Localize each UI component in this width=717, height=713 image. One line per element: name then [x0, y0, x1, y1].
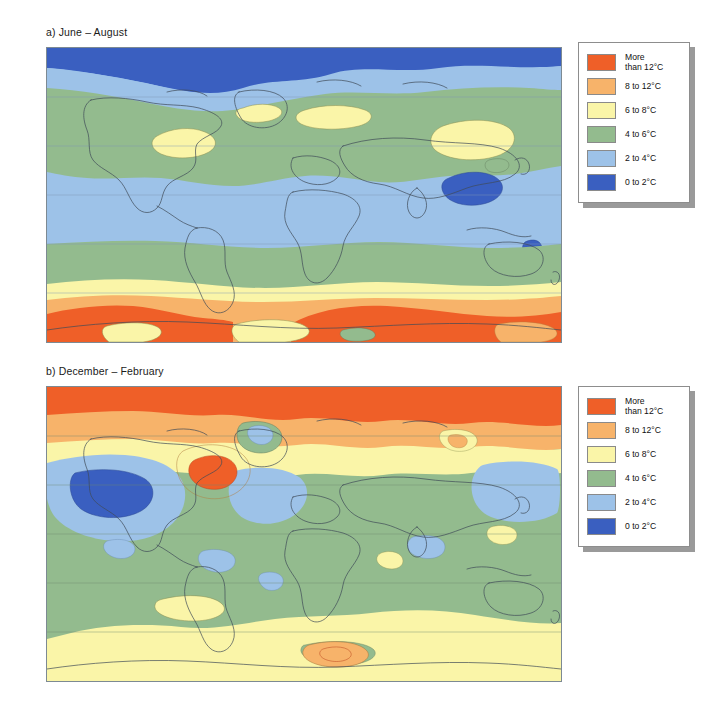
legend-item-4-to-6[interactable]: 4 to 6°C [587, 124, 682, 145]
legend-item-0-to-2[interactable]: 0 to 2°C [587, 172, 682, 193]
legend-item-4-to-6-b[interactable]: 4 to 6°C [587, 468, 682, 489]
legend-item-2-to-4-b[interactable]: 2 to 4°C [587, 492, 682, 513]
map-b-svg [47, 387, 561, 681]
legend-label-0-to-2-b: 0 to 2°C [625, 522, 656, 532]
legend-swatch-0-to-2-b [587, 518, 616, 535]
patch-4to6-southocean-islet [340, 328, 375, 341]
legend-swatch-6-to-8 [587, 102, 616, 119]
legend-label-2-to-4-b: 2 to 4°C [625, 498, 656, 508]
legend-swatch-4-to-6 [587, 126, 616, 143]
legend-swatch-4-to-6-b [587, 470, 616, 487]
legend-december-february: More than 12°C 8 to 12°C 6 to 8°C 4 to 6… [578, 386, 690, 547]
legend-swatch-2-to-4-b [587, 494, 616, 511]
legend-item-more-than-12-b[interactable]: More than 12°C [587, 396, 682, 417]
patch-4to6-philippines [485, 159, 509, 173]
legend-june-august: More than 12°C 8 to 12°C 6 to 8°C 4 to 6… [578, 42, 690, 203]
legend-b-box: More than 12°C 8 to 12°C 6 to 8°C 4 to 6… [578, 386, 690, 547]
legend-swatch-more-than-12 [587, 54, 616, 71]
legend-item-0-to-2-b[interactable]: 0 to 2°C [587, 516, 682, 537]
patch-6to8-southocean-1 [232, 320, 309, 342]
legend-label-more-than-12-b: More than 12°C [625, 397, 663, 417]
panel-december-february: b) December – February [46, 365, 566, 377]
panel-a-caption: a) June – August [46, 26, 566, 38]
patch-6to8-siberia [431, 120, 515, 160]
panel-b-caption: b) December – February [46, 365, 566, 377]
legend-label-2-to-4: 2 to 4°C [625, 154, 656, 164]
legend-item-2-to-4[interactable]: 2 to 4°C [587, 148, 682, 169]
legend-swatch-8-to-12-b [587, 422, 616, 439]
legend-swatch-2-to-4 [587, 150, 616, 167]
legend-swatch-8-to-12 [587, 78, 616, 95]
patch-6to8-scandinavia [296, 106, 371, 130]
legend-label-6-to-8: 6 to 8°C [625, 106, 656, 116]
map-a-svg [47, 48, 561, 342]
legend-item-more-than-12[interactable]: More than 12°C [587, 52, 682, 73]
legend-item-8-to-12-b[interactable]: 8 to 12°C [587, 420, 682, 441]
map-december-february[interactable] [46, 386, 562, 682]
legend-label-6-to-8-b: 6 to 8°C [625, 450, 656, 460]
panel-june-august: a) June – August [46, 26, 566, 38]
legend-item-8-to-12[interactable]: 8 to 12°C [587, 76, 682, 97]
legend-item-6-to-8[interactable]: 6 to 8°C [587, 100, 682, 121]
legend-label-8-to-12: 8 to 12°C [625, 82, 661, 92]
map-june-august[interactable] [46, 47, 562, 343]
legend-label-more-than-12: More than 12°C [625, 53, 663, 73]
legend-label-4-to-6-b: 4 to 6°C [625, 474, 656, 484]
patch-6to8-southocean-2 [102, 323, 161, 342]
legend-label-8-to-12-b: 8 to 12°C [625, 426, 661, 436]
band-2to4-pacific-east-b [472, 462, 560, 522]
legend-swatch-more-than-12-b [587, 398, 616, 415]
legend-swatch-0-to-2 [587, 174, 616, 191]
legend-item-6-to-8-b[interactable]: 6 to 8°C [587, 444, 682, 465]
legend-label-4-to-6: 4 to 6°C [625, 130, 656, 140]
legend-label-0-to-2: 0 to 2°C [625, 178, 656, 188]
patch-0to2-southchinasea [442, 172, 503, 205]
legend-swatch-6-to-8-b [587, 446, 616, 463]
legend-a-box: More than 12°C 8 to 12°C 6 to 8°C 4 to 6… [578, 42, 690, 203]
